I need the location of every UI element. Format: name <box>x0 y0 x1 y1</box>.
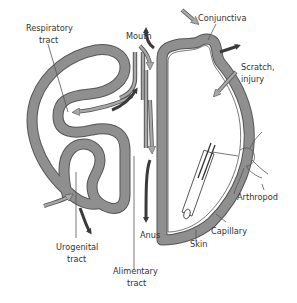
label-capillary: Capillary <box>211 226 247 236</box>
label-mouth: Mouth <box>126 31 152 41</box>
label-alimentary-2: tract <box>127 278 147 288</box>
label-skin: Skin <box>190 239 207 249</box>
label-respiratory-tract-2: tract <box>39 35 59 45</box>
label-conjunctiva: Conjunctiva <box>198 13 246 23</box>
body-surfaces-infection-diagram: Respiratory tract Mouth Conjunctiva Scra… <box>0 0 297 303</box>
skin-surface <box>162 39 249 240</box>
label-alimentary: Alimentary <box>113 266 158 276</box>
label-scratch: Scratch, <box>241 62 275 72</box>
label-injury: injury <box>241 74 264 84</box>
label-anus: Anus <box>140 230 160 240</box>
respiratory-urogenital-surface <box>32 50 125 209</box>
label-urogenital: Urogenital <box>56 242 98 252</box>
label-respiratory-tract: Respiratory <box>26 23 73 33</box>
label-urogenital-2: tract <box>67 254 87 264</box>
label-arthropod: Arthropod <box>237 192 278 202</box>
